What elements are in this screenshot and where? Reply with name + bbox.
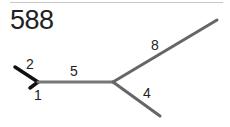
branch-label-4: 4 (143, 85, 151, 101)
branch-label-5: 5 (70, 63, 78, 79)
branch-label-2: 2 (26, 56, 34, 72)
branch-4 (113, 82, 160, 116)
branch-label-1: 1 (34, 87, 42, 103)
tree-diagram: 2 1 5 8 4 (0, 0, 230, 127)
branch-label-8: 8 (151, 37, 159, 53)
branch-8 (113, 20, 217, 82)
